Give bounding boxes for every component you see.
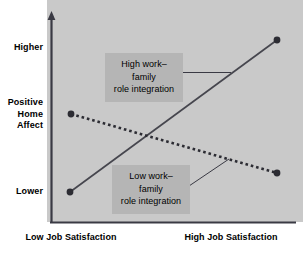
- annotation-high-work-family-role-integration: High work–family role integration: [105, 53, 183, 102]
- y-axis-tick-higher: Higher: [0, 42, 43, 54]
- y-axis-tick-positive-home-affect: Positive Home Affect: [0, 97, 43, 132]
- x-axis-tick-low-job-satisfaction: Low Job Satisfaction: [12, 232, 130, 242]
- x-axis-tick-high-job-satisfaction: High Job Satisfaction: [170, 232, 292, 242]
- annotation-low-work-family-role-integration: Low work–family role integration: [112, 165, 190, 214]
- y-axis-tick-lower: Lower: [0, 186, 43, 198]
- y-axis: [48, 11, 56, 222]
- leader-line-low-integration: [189, 159, 229, 186]
- plot-graphics-layer: [0, 0, 303, 254]
- interaction-plot-figure: Higher Positive Home Affect Lower Low Jo…: [0, 0, 303, 254]
